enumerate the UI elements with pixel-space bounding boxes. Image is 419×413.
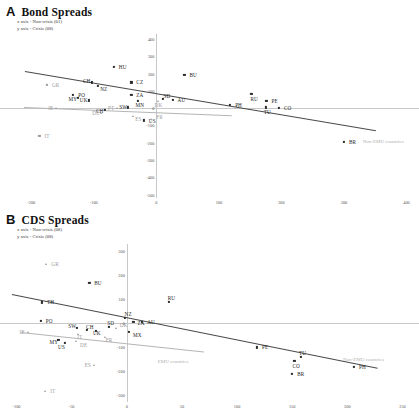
data-point xyxy=(229,104,231,106)
data-point xyxy=(141,321,143,323)
data-point xyxy=(124,317,126,319)
data-point xyxy=(115,327,117,329)
data-point xyxy=(100,112,102,114)
data-point-label: GR xyxy=(52,82,59,88)
data-point-label: FR xyxy=(106,337,113,343)
data-point-label: PE xyxy=(271,98,277,104)
data-point xyxy=(108,326,110,328)
data-point xyxy=(143,119,145,121)
data-point-label: IT xyxy=(50,388,55,394)
data-point-label: IT xyxy=(77,334,82,340)
fit-line-non-emu xyxy=(12,294,378,369)
data-point-label: AU xyxy=(178,97,186,103)
data-point xyxy=(113,66,115,68)
data-point-label: ES xyxy=(135,116,141,122)
data-point xyxy=(27,331,29,333)
data-point-label: FR xyxy=(156,114,163,120)
y-tick-label: -400 xyxy=(146,175,156,180)
data-point-label: GR xyxy=(51,261,58,267)
data-point xyxy=(353,366,355,368)
data-point-label: BU xyxy=(189,72,196,78)
y-tick-label: -300 xyxy=(117,392,127,397)
data-point xyxy=(343,141,345,143)
data-point xyxy=(55,107,57,109)
data-point xyxy=(250,93,252,95)
x-tick-label: 50 xyxy=(180,404,184,409)
data-point xyxy=(41,301,43,303)
data-point-label: DE xyxy=(92,110,99,116)
x-tick-label: 0 xyxy=(155,200,157,205)
data-point-label: HU xyxy=(119,64,127,70)
data-point-label: TH xyxy=(47,299,54,305)
scatter-plot-bond-spreads: -200-10001002003004004003002001000-100-2… xyxy=(0,34,419,198)
scatter-plot-cds-spreads: -100-500501001502002503002001000-100-200… xyxy=(0,244,419,402)
data-point-label: MY xyxy=(49,339,58,345)
data-point xyxy=(75,340,77,342)
data-point-label: SW xyxy=(68,323,76,329)
data-point-label: PO xyxy=(46,318,53,324)
data-point xyxy=(116,107,118,109)
y-tick-label: 200 xyxy=(118,273,126,278)
data-point-label: BR xyxy=(349,139,356,145)
data-point-label: MN xyxy=(136,102,145,108)
data-point xyxy=(168,301,170,303)
data-point-label: IT xyxy=(44,133,49,139)
data-point-label: AU xyxy=(147,319,155,325)
data-point xyxy=(291,373,293,375)
y-tick-label: 100 xyxy=(118,297,126,302)
y-tick-label: -300 xyxy=(146,158,156,163)
x-axis-line xyxy=(0,323,419,324)
data-point-label: MY xyxy=(69,96,78,102)
data-point-label: CZ xyxy=(136,79,143,85)
x-tick-label: -100 xyxy=(90,200,98,205)
data-point xyxy=(256,346,258,348)
data-point-label: NZ xyxy=(125,311,132,317)
data-point xyxy=(132,115,134,117)
x-tick-label: 100 xyxy=(216,200,222,205)
data-point-label: UK xyxy=(80,97,88,103)
data-point xyxy=(265,106,267,108)
data-point-label: CO xyxy=(292,363,299,369)
y-tick-label: -500 xyxy=(146,192,156,197)
x-tick-label: 150 xyxy=(289,404,295,409)
x-tick-label: 250 xyxy=(399,404,405,409)
x-tick-label: -100 xyxy=(13,404,21,409)
data-point xyxy=(38,135,40,137)
data-point-label: PE xyxy=(262,344,268,350)
panel-a-yaxis-note: y axis - Crisis (08) xyxy=(17,26,53,31)
data-point xyxy=(132,321,134,323)
data-point-label: PH xyxy=(235,102,242,108)
y-tick-label: 200 xyxy=(148,71,156,76)
data-point xyxy=(183,73,185,75)
data-point xyxy=(293,360,295,362)
panel-b-title: CDS Spreads xyxy=(21,214,89,226)
data-point-label: SD xyxy=(107,320,114,326)
x-tick-label: 0 xyxy=(126,404,128,409)
data-point xyxy=(91,81,93,83)
data-point-label: DE xyxy=(80,342,87,348)
data-point xyxy=(97,85,99,87)
data-point xyxy=(104,109,106,111)
y-tick-label: 300 xyxy=(118,249,126,254)
data-point-label: TU xyxy=(264,109,271,115)
data-point-label: NZ xyxy=(100,86,107,92)
x-tick-label: 300 xyxy=(341,200,347,205)
data-point xyxy=(300,356,302,358)
data-point xyxy=(45,263,47,265)
data-point-label: TU xyxy=(299,350,306,356)
x-tick-label: 200 xyxy=(344,404,350,409)
data-point-label: IE xyxy=(48,105,53,111)
data-point xyxy=(93,364,95,366)
y-tick-label: 300 xyxy=(148,54,156,59)
panel-b-header: B CDS Spreads xyxy=(6,212,89,227)
data-point xyxy=(150,118,152,120)
annotation-emu-countries: EMU countries xyxy=(158,359,189,364)
data-point-label: UK xyxy=(93,330,101,336)
x-tick-label: 200 xyxy=(278,200,284,205)
panel-b-yaxis-note: y axis - Crisis (08) xyxy=(17,234,53,239)
data-point-label: BU xyxy=(94,280,101,286)
data-point xyxy=(130,81,132,83)
fit-line-emu xyxy=(21,332,204,353)
data-point xyxy=(278,107,280,109)
data-point-label: CH xyxy=(83,78,90,84)
